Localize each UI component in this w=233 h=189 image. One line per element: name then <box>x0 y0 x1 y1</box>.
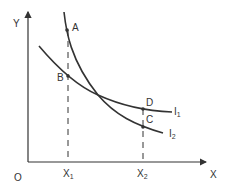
curve-i1-label: I1 <box>174 107 181 118</box>
point-c-marker <box>141 125 145 129</box>
diagram-svg <box>0 0 233 189</box>
x-axis-label: X <box>210 170 217 180</box>
point-b-label: B <box>57 73 64 83</box>
point-a-marker <box>65 28 69 32</box>
origin-label: O <box>14 173 22 183</box>
curve-i2-label: I2 <box>169 129 176 140</box>
point-c-label: C <box>146 115 153 125</box>
point-d-label: D <box>146 98 153 108</box>
diagram-canvas: Y X O X1 X2 I1 I2 A B C D <box>0 0 233 189</box>
tick-x1-label: X1 <box>63 169 74 180</box>
y-axis-label: Y <box>13 19 20 29</box>
point-d-marker <box>141 107 145 111</box>
tick-x2-label: X2 <box>137 169 148 180</box>
point-b-marker <box>66 74 70 78</box>
point-a-label: A <box>72 23 79 33</box>
